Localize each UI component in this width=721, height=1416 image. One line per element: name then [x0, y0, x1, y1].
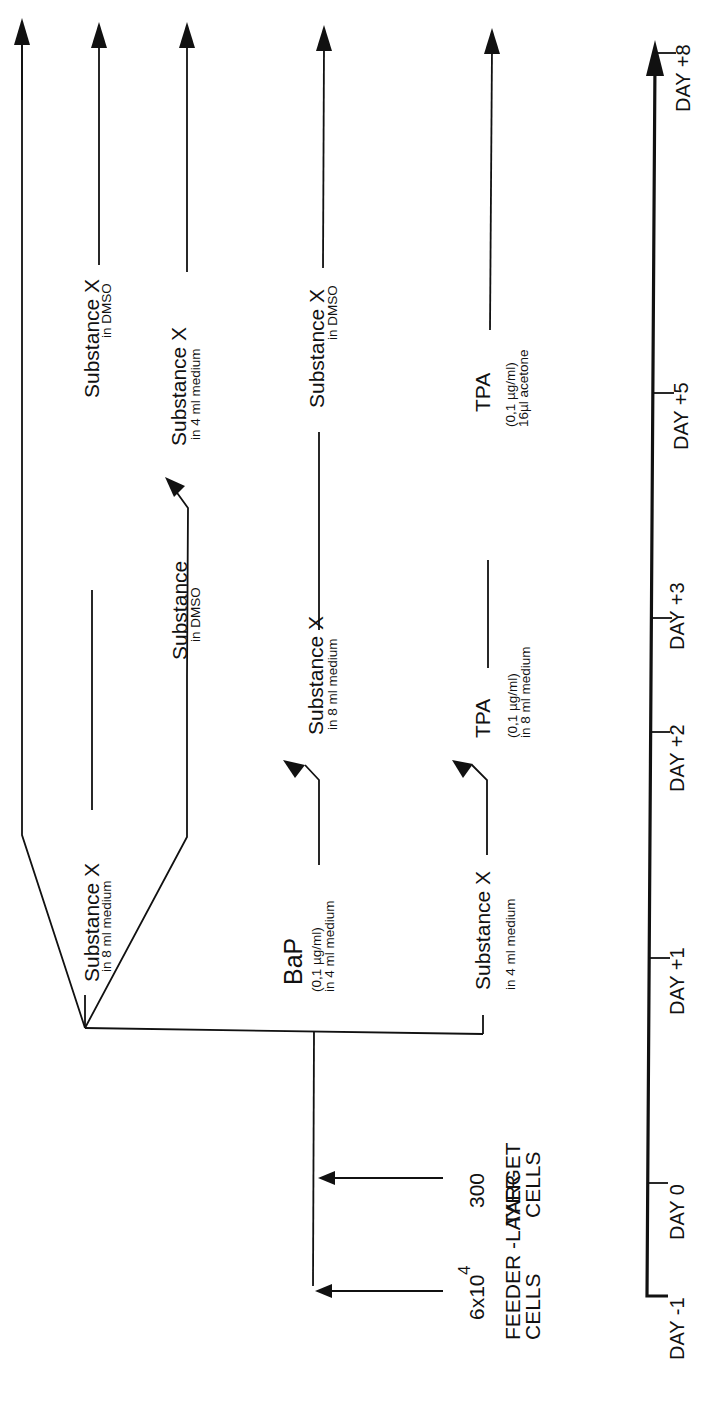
tick-day-plus-1: DAY +1: [666, 947, 688, 1015]
branch-3-step-2-label: Substance X: [304, 616, 327, 735]
branch-2-step-2-sub: in 4 ml medium: [188, 348, 203, 440]
branch-4-step-1-label: Substance X: [471, 871, 494, 990]
branch-3-line-a: [305, 765, 319, 865]
branch-3-step-1-label: BaP: [279, 938, 307, 985]
timeline-arrowhead-icon: [646, 40, 664, 76]
branch-3-step-2-sub: in 8 ml medium: [325, 638, 340, 730]
tick-day-0: DAY 0: [666, 1184, 688, 1240]
branch-3-step-1-sub2: in 4 ml medium: [322, 900, 337, 992]
arrowhead-icon: [165, 477, 185, 497]
branch-3-step-3-sub: in DMSO: [325, 285, 340, 340]
branch-2-step-1-sub: in DMSO: [188, 587, 203, 642]
feeder-cells-arrow: [315, 1284, 443, 1298]
branch-2-step-2-label: Substance X: [167, 327, 190, 446]
arrowhead-icon: [14, 18, 30, 45]
tick-day-plus-2: DAY +2: [666, 724, 688, 792]
tick-day-minus-1: DAY -1: [666, 1297, 688, 1360]
target-count: 300: [465, 1173, 488, 1208]
tick-day-plus-3: DAY +3: [666, 582, 688, 650]
experimental-protocol-diagram: DAY -1 DAY 0 DAY +1 DAY +2 DAY +3 DAY +5…: [0, 0, 721, 1416]
branch-4-step-2-sub2: in 8 ml medium: [518, 646, 533, 738]
branch-4-step-3-label: TPA: [471, 373, 494, 412]
branch-1-step-2-sub: in DMSO: [99, 283, 114, 338]
arrowhead-icon: [316, 25, 332, 51]
arrowhead-icon: [283, 760, 305, 778]
branch-4-step-2-label: TPA: [471, 699, 494, 738]
branch-4-line-a: [472, 765, 487, 855]
tick-day-plus-8: DAY +8: [672, 44, 694, 112]
arrowhead-icon: [91, 22, 107, 48]
branch-4-line-c: [490, 48, 492, 330]
target-cells-arrow: [318, 1171, 443, 1185]
combine-line: [313, 1032, 314, 1286]
branch-1-step-1-sub: in 8 ml medium: [99, 880, 114, 972]
branch-3-line-c: [323, 45, 324, 268]
feeder-label-line2: CELLS: [521, 1273, 544, 1340]
feeder-count: 6x10: [465, 1274, 488, 1320]
tick-day-plus-5: DAY +5: [670, 382, 692, 450]
branch-4-step-3-sub2: 16µl acetone: [516, 349, 531, 427]
arrowhead-icon: [484, 28, 500, 54]
timeline: [646, 40, 676, 1296]
arrowhead-icon: [452, 760, 473, 778]
feeder-exponent: 4: [455, 1266, 474, 1275]
split-line: [85, 1028, 483, 1034]
target-label-line2: CELLS: [521, 1151, 544, 1218]
branch-4-step-1-sub: in 4 ml medium: [503, 898, 518, 990]
arrowhead-icon: [179, 22, 195, 48]
